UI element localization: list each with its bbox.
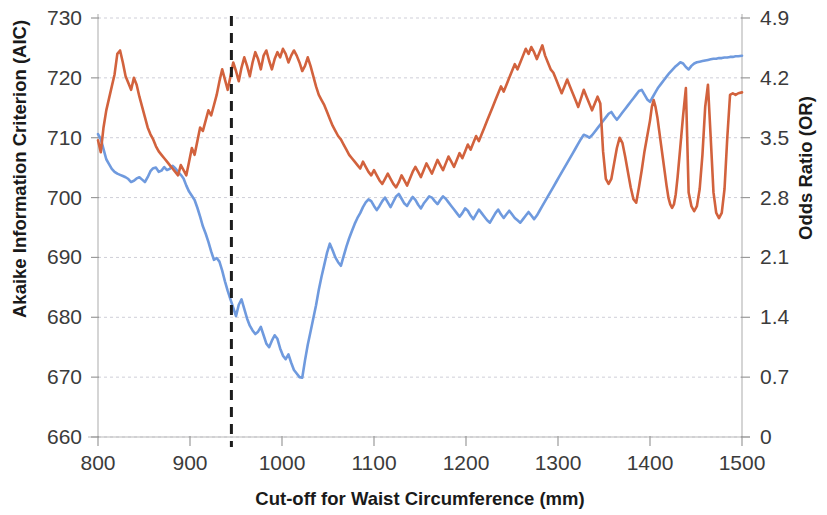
x-axis-tick-labels: 800900100011001200130014001500 (80, 451, 765, 474)
y2-axis-tick-label: 2.1 (760, 245, 789, 268)
y2-axis-tick-label: 1.4 (760, 305, 790, 328)
right-axis-tick-labels: 00.71.42.12.83.54.24.9 (760, 6, 790, 448)
left-axis-tick-labels: 660670680690700710720730 (47, 6, 82, 448)
y2-axis-tick-label: 4.9 (760, 6, 789, 29)
x-axis-tick-label: 1300 (535, 451, 582, 474)
y-axis-tick-label: 670 (47, 365, 82, 388)
grid-lines (98, 18, 742, 437)
series-line-aic (98, 56, 742, 378)
x-axis-tick-label: 1500 (719, 451, 766, 474)
y2-axis-tick-label: 3.5 (760, 126, 789, 149)
x-axis-tick-label: 1200 (443, 451, 490, 474)
x-axis-title: Cut-off for Waist Circumference (mm) (255, 488, 584, 509)
x-axis-tick-label: 1400 (627, 451, 674, 474)
left-axis-title: Akaike Information Criterion (AIC) (9, 20, 30, 318)
y-axis-tick-label: 700 (47, 186, 82, 209)
x-axis-tick-label: 1000 (259, 451, 306, 474)
right-axis-title: Odds Ratio (OR) (795, 96, 816, 240)
y-axis-tick-label: 710 (47, 126, 82, 149)
y-axis-tick-label: 690 (47, 245, 82, 268)
x-axis-tick-label: 800 (80, 451, 115, 474)
x-axis-tick-label: 900 (172, 451, 207, 474)
series-line-odds-ratio (98, 45, 742, 218)
y2-axis-tick-label: 0 (760, 425, 772, 448)
x-axis-tick-label: 1100 (351, 451, 396, 474)
y-axis-tick-label: 660 (47, 425, 82, 448)
y2-axis-tick-label: 2.8 (760, 186, 789, 209)
aic-odds-ratio-line-chart: 660670680690700710720730 00.71.42.12.83.… (0, 0, 827, 515)
y-axis-tick-label: 680 (47, 305, 82, 328)
y2-axis-tick-label: 4.2 (760, 66, 789, 89)
chart-container: 660670680690700710720730 00.71.42.12.83.… (0, 0, 827, 515)
y-axis-tick-label: 730 (47, 6, 82, 29)
data-series (98, 45, 742, 377)
y2-axis-tick-label: 0.7 (760, 365, 789, 388)
tick-marks (91, 18, 750, 446)
y-axis-tick-label: 720 (47, 66, 82, 89)
